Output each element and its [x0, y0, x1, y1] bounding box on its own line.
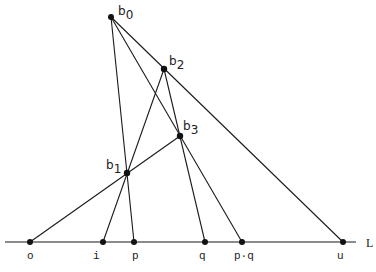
point-b0	[108, 14, 114, 20]
label-b1: b1	[106, 158, 121, 176]
point-b1	[124, 170, 130, 176]
label-b0: b0	[118, 4, 133, 22]
point-p	[131, 239, 137, 245]
point-b2	[161, 66, 167, 72]
point-b3	[177, 133, 183, 139]
label-b2: b2	[169, 54, 184, 72]
label-i: i	[93, 250, 100, 262]
point-o	[27, 239, 33, 245]
label-p: p	[132, 250, 139, 262]
label-L: L	[366, 236, 373, 250]
segment-o-b3	[30, 136, 180, 242]
segment-b0-u	[111, 17, 343, 242]
point-pq	[239, 239, 245, 245]
label-o: o	[27, 250, 34, 262]
construction-diagram: b0 b2 b3 b1 o i p q p·q u L	[0, 0, 376, 272]
segment-b2-i	[103, 69, 164, 242]
segment-b2-q	[164, 69, 205, 242]
point-u	[340, 239, 346, 245]
label-u: u	[337, 250, 344, 262]
label-pq: p·q	[234, 250, 254, 262]
label-q: q	[199, 250, 206, 262]
point-i	[100, 239, 106, 245]
point-q	[202, 239, 208, 245]
label-b3: b3	[183, 119, 198, 137]
